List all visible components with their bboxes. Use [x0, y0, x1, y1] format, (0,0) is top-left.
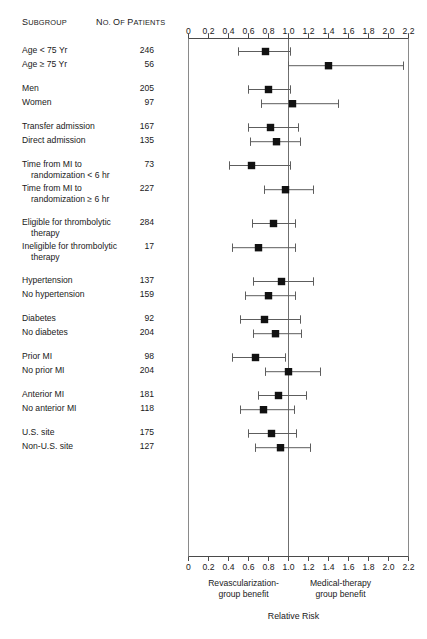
left-benefit-label-line1: Revascularization- [208, 578, 279, 588]
x-axis-tick-label: 1.0 [283, 26, 295, 36]
risk-estimate-marker [282, 186, 289, 193]
risk-estimate-marker [277, 444, 284, 451]
risk-estimate-marker [267, 124, 274, 131]
risk-estimate-marker [255, 244, 262, 251]
risk-estimate-marker [262, 48, 269, 55]
x-axis-tick-label: 0 [186, 26, 191, 36]
risk-estimate-marker [260, 406, 267, 413]
risk-estimate-marker [265, 86, 272, 93]
risk-estimate-marker [268, 430, 275, 437]
forest-plot: 00.20.40.60.81.01.21.41.61.82.02.200.20.… [0, 0, 427, 639]
x-axis-tick-label: 2.0 [383, 562, 395, 572]
x-axis-tick-label: 0.2 [203, 562, 215, 572]
risk-estimate-marker [265, 292, 272, 299]
risk-estimate-marker [248, 162, 255, 169]
risk-estimate-marker [289, 100, 296, 107]
x-axis-tick-label: 1.2 [303, 26, 315, 36]
risk-estimate-marker [285, 368, 292, 375]
x-axis-tick-label: 0.8 [263, 26, 275, 36]
x-axis-tick-label: 1.6 [343, 26, 355, 36]
x-axis-tick-label: 0.6 [243, 562, 255, 572]
x-axis-tick-label: 1.0 [283, 562, 295, 572]
x-axis-tick-label: 1.4 [323, 26, 335, 36]
left-benefit-label-line2: group benefit [218, 589, 269, 599]
x-axis-tick-label: 1.8 [363, 562, 375, 572]
risk-estimate-marker [270, 220, 277, 227]
forest-plot-canvas: 00.20.40.60.81.01.21.41.61.82.02.200.20.… [0, 0, 427, 639]
risk-estimate-marker [275, 392, 282, 399]
x-axis-tick-label: 0.4 [223, 26, 235, 36]
risk-estimate-marker [278, 278, 285, 285]
x-axis-tick-label: 2.2 [403, 26, 415, 36]
x-axis-tick-label: 2.2 [403, 562, 415, 572]
x-axis-title: Relative Risk [268, 611, 320, 621]
x-axis-tick-label: 0.4 [223, 562, 235, 572]
x-axis-tick-label: 2.0 [383, 26, 395, 36]
x-axis-tick-label: 0.2 [203, 26, 215, 36]
risk-estimate-marker [325, 62, 332, 69]
risk-estimate-marker [272, 330, 279, 337]
risk-estimate-marker [252, 354, 259, 361]
x-axis-tick-label: 1.4 [323, 562, 335, 572]
x-axis-tick-label: 0.6 [243, 26, 255, 36]
x-axis-tick-label: 0 [186, 562, 191, 572]
risk-estimate-marker [261, 316, 268, 323]
right-benefit-label-line2: group benefit [315, 589, 366, 599]
x-axis-tick-label: 1.2 [303, 562, 315, 572]
x-axis-tick-label: 1.6 [343, 562, 355, 572]
right-benefit-label-line1: Medical-therapy [310, 578, 372, 588]
x-axis-tick-label: 1.8 [363, 26, 375, 36]
x-axis-tick-label: 0.8 [263, 562, 275, 572]
risk-estimate-marker [273, 138, 280, 145]
